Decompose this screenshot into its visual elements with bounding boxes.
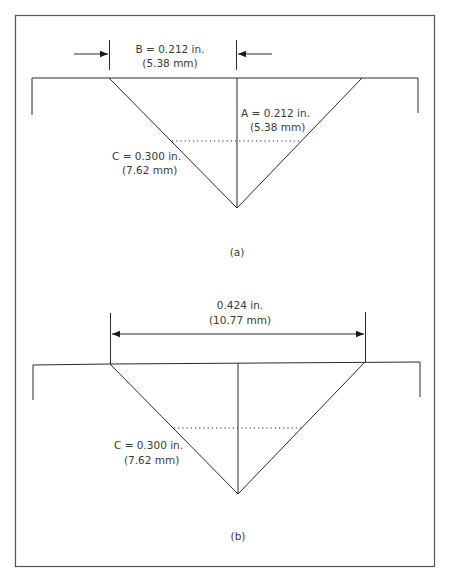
- caption-b: (b): [231, 530, 246, 542]
- label-c-mm-a: (7.62 mm): [122, 164, 177, 176]
- label-c-mm-b: (7.62 mm): [124, 454, 179, 466]
- diagram-canvas: B = 0.212 in. (5.38 mm) A = 0.212 in. (5…: [0, 0, 450, 580]
- panel-b: 0.424 in. (10.77 mm) C = 0.300 in. (7.62…: [33, 299, 420, 542]
- label-a-inches: A = 0.212 in.: [241, 107, 310, 119]
- surface-line-a: [32, 78, 418, 115]
- label-c-inches-a: C = 0.300 in.: [112, 150, 181, 162]
- figure-frame: [16, 16, 435, 567]
- surface-line-b: [33, 362, 420, 400]
- label-width-mm: (10.77 mm): [209, 314, 271, 326]
- label-c-inches-b: C = 0.300 in.: [114, 439, 183, 451]
- label-b-mm: (5.38 mm): [142, 57, 197, 69]
- v-groove-a: [109, 78, 362, 208]
- caption-a: (a): [230, 246, 245, 258]
- label-b-inches: B = 0.212 in.: [136, 43, 205, 55]
- panel-a: B = 0.212 in. (5.38 mm) A = 0.212 in. (5…: [32, 40, 418, 258]
- label-width-inches: 0.424 in.: [217, 299, 263, 311]
- label-a-mm: (5.38 mm): [250, 121, 305, 133]
